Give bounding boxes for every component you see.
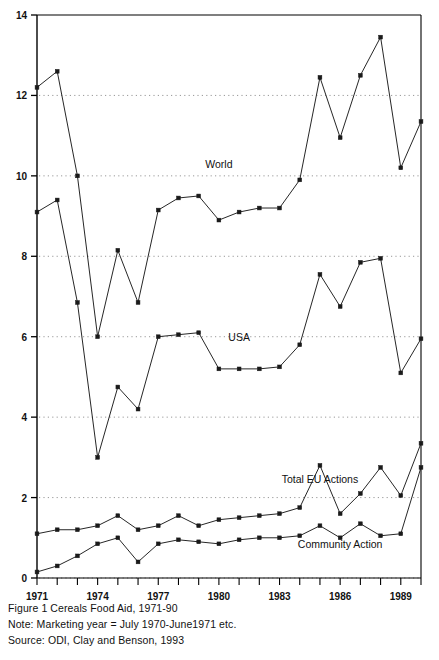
data-point [35, 85, 39, 89]
data-point [318, 272, 322, 276]
x-tick-label: 1971 [26, 591, 49, 600]
data-point [156, 335, 160, 339]
data-point [116, 385, 120, 389]
series-annotation: Community Action [298, 538, 383, 550]
data-point [55, 564, 59, 568]
y-tick-label: 4 [21, 412, 27, 423]
data-point [358, 260, 362, 264]
data-point [76, 301, 80, 305]
data-point [35, 570, 39, 574]
data-point [257, 536, 261, 540]
data-point [197, 524, 201, 528]
data-point [116, 248, 120, 252]
data-point [55, 69, 59, 73]
data-point [136, 407, 140, 411]
data-point [399, 532, 403, 536]
data-point [96, 524, 100, 528]
y-tick-label: 2 [21, 493, 27, 504]
data-point [237, 367, 241, 371]
data-point [197, 194, 201, 198]
y-tick-label: 6 [21, 332, 27, 343]
data-point [237, 210, 241, 214]
figure-note: Note: Marketing year = July 1970-June197… [8, 616, 439, 632]
series-annotation: World [205, 158, 232, 170]
data-point [116, 514, 120, 518]
data-point [419, 337, 423, 341]
data-point [338, 305, 342, 309]
data-point [298, 506, 302, 510]
data-point [278, 512, 282, 516]
data-point [237, 516, 241, 520]
data-point [318, 75, 322, 79]
data-point [419, 466, 423, 470]
data-point [338, 136, 342, 140]
data-point [177, 538, 181, 542]
data-point [278, 365, 282, 369]
data-point [136, 528, 140, 532]
y-tick-label: 10 [16, 171, 28, 182]
data-point [55, 528, 59, 532]
data-point [419, 120, 423, 124]
data-point [177, 333, 181, 337]
data-point [136, 560, 140, 564]
data-point [217, 218, 221, 222]
x-tick-label: 1974 [87, 591, 110, 600]
data-point [278, 536, 282, 540]
data-point [358, 73, 362, 77]
data-point [257, 367, 261, 371]
figure-source: Source: ODI, Clay and Benson, 1993 [8, 632, 439, 648]
data-point [358, 492, 362, 496]
data-point [399, 494, 403, 498]
data-point [197, 331, 201, 335]
x-tick-label: 1989 [390, 591, 413, 600]
data-point [177, 514, 181, 518]
data-point [278, 206, 282, 210]
data-point [379, 466, 383, 470]
data-point [136, 301, 140, 305]
data-point [237, 538, 241, 542]
data-point [338, 512, 342, 516]
data-point [379, 35, 383, 39]
data-point [55, 198, 59, 202]
y-tick-label: 12 [16, 90, 28, 101]
data-point [217, 367, 221, 371]
figure-container: 02468101214 1971197419771980198319861989… [0, 0, 439, 660]
y-tick-label: 14 [16, 10, 28, 21]
data-point [217, 518, 221, 522]
data-point [156, 208, 160, 212]
data-point [96, 335, 100, 339]
data-point [76, 528, 80, 532]
data-point [298, 178, 302, 182]
data-point [197, 540, 201, 544]
data-point [116, 536, 120, 540]
data-point [96, 542, 100, 546]
data-point [76, 174, 80, 178]
data-point [35, 532, 39, 536]
series-annotation: Total EU Actions [282, 473, 358, 485]
y-tick-label: 0 [21, 573, 27, 584]
x-tick-label: 1986 [329, 591, 352, 600]
data-point [257, 514, 261, 518]
data-point [76, 554, 80, 558]
data-point [358, 522, 362, 526]
data-point [298, 343, 302, 347]
data-point [156, 524, 160, 528]
data-point [257, 206, 261, 210]
data-point [35, 210, 39, 214]
cereals-food-aid-line-chart: 02468101214 1971197419771980198319861989… [0, 0, 439, 600]
data-point [399, 371, 403, 375]
data-point [399, 166, 403, 170]
data-point [318, 464, 322, 468]
figure-caption-block: Figure 1 Cereals Food Aid, 1971-90 Note:… [8, 600, 439, 648]
x-tick-label: 1980 [208, 591, 231, 600]
data-point [96, 455, 100, 459]
data-point [156, 542, 160, 546]
data-point [419, 441, 423, 445]
y-tick-label: 8 [21, 251, 27, 262]
data-point [177, 196, 181, 200]
data-point [379, 256, 383, 260]
x-tick-label: 1983 [268, 591, 291, 600]
chart-plot-area: 02468101214 1971197419771980198319861989… [0, 0, 439, 600]
data-point [217, 542, 221, 546]
series-annotation: USA [228, 331, 250, 343]
